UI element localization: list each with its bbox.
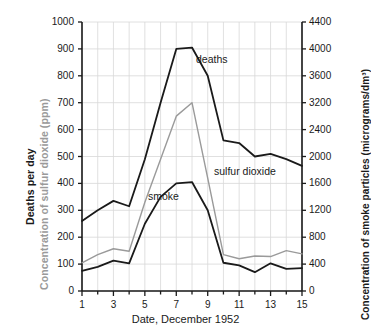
x-axis-tick-label: 7 — [166, 300, 186, 310]
x-axis-tick-label: 5 — [135, 300, 155, 310]
left-axis-tick-label: 200 — [40, 232, 74, 242]
left-axis-tick-label: 800 — [40, 71, 74, 81]
right-axis-tick-label: 2000 — [309, 152, 343, 162]
right-axis-tick-label: 4000 — [309, 44, 343, 54]
x-axis-tick-label: 11 — [229, 300, 249, 310]
right-axis-tick-label: 4400 — [309, 17, 343, 27]
chart-figure: Deaths per day Concentration of sulfur d… — [0, 0, 371, 335]
series-label-sulfur-dioxide: sulfur dioxide — [214, 165, 276, 177]
left-axis-tick-label: 900 — [40, 44, 74, 54]
x-axis-tick-label: 1 — [72, 300, 92, 310]
x-axis-tick-label: 15 — [292, 300, 312, 310]
x-axis-tick-label: 13 — [261, 300, 281, 310]
right-axis-tick-label: 2400 — [309, 125, 343, 135]
left-axis-tick-label: 100 — [40, 259, 74, 269]
right-axis-tick-label: 3200 — [309, 98, 343, 108]
left-axis-tick-label: 300 — [40, 205, 74, 215]
x-axis-tick-label: 3 — [103, 300, 123, 310]
left-axis-tick-label: 1000 — [40, 17, 74, 27]
x-axis-tick-label: 9 — [198, 300, 218, 310]
right-axis-tick-label: 1200 — [309, 205, 343, 215]
right-axis-tick-label: 800 — [309, 232, 343, 242]
right-axis-tick-label: 3600 — [309, 71, 343, 81]
series-label-deaths: deaths — [196, 53, 228, 65]
right-axis-tick-label: 1600 — [309, 178, 343, 188]
left-axis-tick-label: 700 — [40, 98, 74, 108]
left-axis-tick-label: 500 — [40, 152, 74, 162]
left-axis-tick-label: 600 — [40, 125, 74, 135]
left-axis-tick-label: 0 — [40, 286, 74, 296]
right-axis-tick-label: 0 — [309, 286, 343, 296]
x-axis-title: Date, December 1952 — [0, 313, 371, 325]
right-axis-tick-label: 400 — [309, 259, 343, 269]
series-label-smoke: smoke — [148, 190, 179, 202]
left-axis-tick-label: 400 — [40, 178, 74, 188]
